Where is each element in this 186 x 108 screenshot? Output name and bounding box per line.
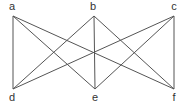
bipartite-graph-diagram: abcdef: [0, 0, 186, 108]
node-label-f: f: [172, 91, 176, 103]
node-label-b: b: [90, 0, 96, 12]
node-label-d: d: [9, 91, 15, 103]
edges: [13, 16, 174, 89]
node-label-e: e: [92, 91, 98, 103]
node-label-c: c: [171, 0, 177, 12]
node-label-a: a: [9, 0, 16, 12]
